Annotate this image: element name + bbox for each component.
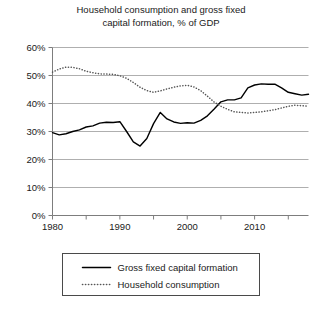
series-line (53, 67, 309, 113)
x-tick-label: 1990 (109, 221, 130, 232)
chart-legend: Gross fixed capital formationHousehold c… (63, 254, 260, 296)
series-line (53, 84, 309, 146)
x-tick-label: 1980 (42, 221, 63, 232)
x-tick-label: 2010 (244, 221, 265, 232)
x-tick-label: 2000 (177, 221, 198, 232)
chart-plot: 0%10%20%30%40%50%60% 1980199020002010 Gr… (0, 0, 322, 310)
chart-container: Household consumption and gross fixed ca… (0, 0, 322, 310)
y-tick-label: 0% (32, 210, 46, 221)
y-tick-label: 20% (26, 154, 46, 165)
y-tick-label: 30% (26, 126, 46, 137)
data-series-group (53, 67, 309, 146)
x-axis-ticks (49, 48, 289, 220)
legend-item-label: Gross fixed capital formation (118, 262, 238, 273)
y-tick-label: 10% (26, 182, 46, 193)
gridlines-group (53, 48, 309, 216)
y-axis-tick-labels: 0%10%20%30%40%50%60% (26, 42, 46, 221)
y-tick-label: 60% (26, 42, 46, 53)
x-axis-tick-labels: 1980199020002010 (42, 221, 265, 232)
y-tick-label: 40% (26, 98, 46, 109)
legend-item-label: Household consumption (118, 279, 220, 290)
y-tick-label: 50% (26, 70, 46, 81)
